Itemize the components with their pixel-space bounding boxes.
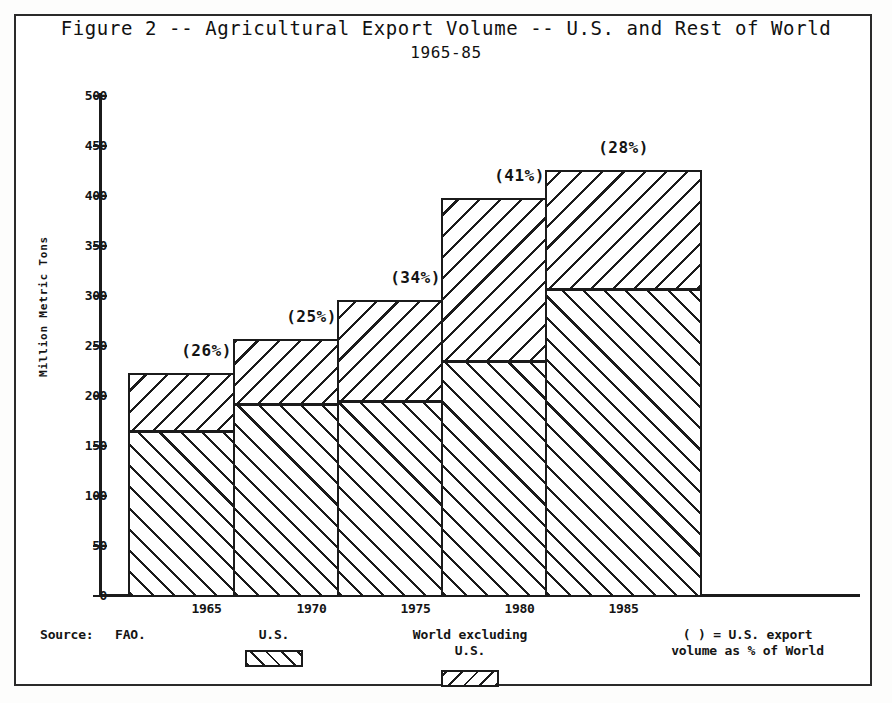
legend-note-percent: ( ) = U.S. export volume as % of World: [625, 627, 870, 660]
bar-annotation-1985: (28%): [525, 138, 722, 157]
legend-label-world-excluding-us: World excluding U.S.: [380, 627, 560, 660]
y-tick-mark: [93, 495, 107, 497]
source-value: FAO.: [115, 627, 146, 643]
y-tick-100: 100: [0, 488, 107, 502]
legend-label-us: U.S.: [219, 627, 329, 643]
y-tick-400: 400: [0, 188, 107, 202]
y-tick-mark: [93, 245, 107, 247]
y-tick-mark: [93, 545, 107, 547]
legend-swatch-us: [245, 650, 303, 667]
x-tick-label-1985: 1985: [525, 601, 722, 616]
chart-plot-area: Million Metric Tons 05010015020025030035…: [0, 0, 892, 703]
y-tick-300: 300: [0, 288, 107, 302]
bar-divider-1985: [545, 288, 702, 291]
bar-segment-world-excluding-us-1985: [545, 170, 702, 290]
y-tick-200: 200: [0, 388, 107, 402]
y-tick-0: 0: [0, 588, 107, 602]
y-tick-350: 350: [0, 238, 107, 252]
legend-swatch-world-excluding-us: [441, 670, 499, 687]
y-tick-450: 450: [0, 138, 107, 152]
y-tick-mark: [93, 145, 107, 147]
y-tick-mark: [93, 95, 107, 97]
y-tick-mark: [93, 395, 107, 397]
y-tick-50: 50: [0, 538, 107, 552]
y-tick-250: 250: [0, 338, 107, 352]
source-label: Source:: [40, 627, 93, 643]
bar-segment-us-1985: [545, 288, 702, 597]
y-tick-500: 500: [0, 88, 107, 102]
y-axis-title: Million Metric Tons: [37, 207, 50, 407]
y-tick-mark: [93, 345, 107, 347]
figure-page: Figure 2 -- Agricultural Export Volume -…: [0, 0, 892, 703]
y-tick-mark: [93, 295, 107, 297]
y-tick-150: 150: [0, 438, 107, 452]
y-tick-mark: [93, 445, 107, 447]
y-tick-mark: [93, 595, 107, 597]
y-tick-mark: [93, 195, 107, 197]
